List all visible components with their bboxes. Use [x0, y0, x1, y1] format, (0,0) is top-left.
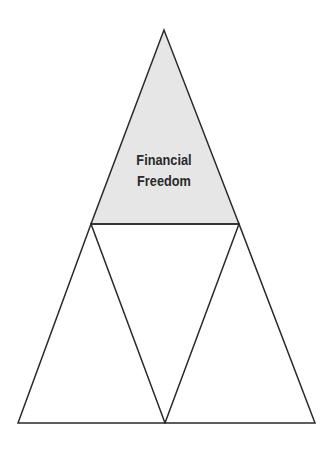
bottom-right-triangle	[165, 224, 315, 423]
label-line-2: Freedom	[122, 170, 207, 191]
bottom-left-triangle	[18, 224, 165, 423]
top-triangle	[91, 30, 239, 224]
pyramid-diagram	[0, 0, 336, 449]
label-line-1: Financial	[122, 149, 207, 170]
top-section-label: Financial Freedom	[122, 149, 207, 191]
